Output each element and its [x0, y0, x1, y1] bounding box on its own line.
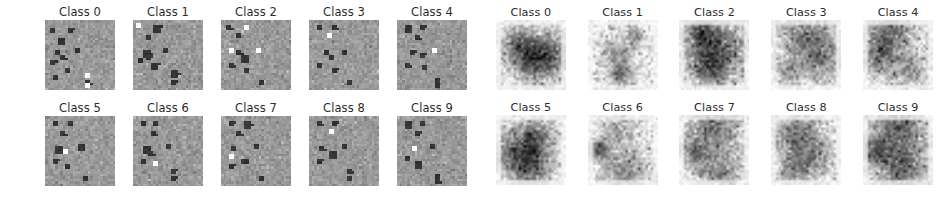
right-tile-cell-0: Class 0	[492, 6, 570, 99]
right-tile-cell-4: Class 4	[859, 6, 937, 99]
right-tile-image-1	[588, 20, 658, 90]
left-tile-image-wrap-9	[396, 116, 468, 194]
left-tile-image-wrap-7	[220, 116, 292, 194]
left-tile-image-wrap-2	[220, 20, 292, 98]
right-tile-title-3: Class 3	[786, 6, 827, 19]
left-tile-cell-3: Class 3	[308, 6, 380, 98]
left-tile-image-5	[45, 116, 115, 186]
left-tile-cell-1: Class 1	[132, 6, 204, 98]
right-panel-grid: Class 0Class 1Class 2Class 3Class 4Class…	[482, 0, 947, 202]
right-tile-image-wrap-2	[676, 20, 754, 99]
right-tile-image-wrap-4	[859, 20, 937, 99]
right-tile-cell-9: Class 9	[859, 101, 937, 194]
right-tile-image-7	[679, 115, 749, 185]
left-tile-cell-8: Class 8	[308, 102, 380, 194]
left-tile-title-9: Class 9	[411, 102, 453, 115]
right-tile-image-0	[496, 20, 566, 90]
right-tile-cell-6: Class 6	[584, 101, 662, 194]
left-tile-title-3: Class 3	[323, 6, 365, 19]
right-tile-image-4	[863, 20, 933, 90]
left-tile-image-2	[221, 20, 291, 90]
right-tile-image-6	[588, 115, 658, 185]
left-tile-title-5: Class 5	[59, 102, 101, 115]
right-tile-cell-1: Class 1	[584, 6, 662, 99]
right-tile-cell-2: Class 2	[676, 6, 754, 99]
left-tile-image-6	[133, 116, 203, 186]
left-tile-image-3	[309, 20, 379, 90]
right-tile-image-wrap-9	[859, 115, 937, 194]
right-tile-image-wrap-3	[767, 20, 845, 99]
right-tile-title-6: Class 6	[602, 101, 643, 114]
right-tile-image-wrap-0	[492, 20, 570, 99]
left-tile-image-0	[45, 20, 115, 90]
left-tile-image-wrap-8	[308, 116, 380, 194]
left-tile-title-4: Class 4	[411, 6, 453, 19]
left-tile-cell-6: Class 6	[132, 102, 204, 194]
right-tile-image-5	[496, 115, 566, 185]
left-tile-image-4	[397, 20, 467, 90]
left-tile-title-0: Class 0	[59, 6, 101, 19]
left-tile-cell-0: Class 0	[44, 6, 116, 98]
left-tile-image-7	[221, 116, 291, 186]
right-tile-title-2: Class 2	[694, 6, 735, 19]
left-tile-image-9	[397, 116, 467, 186]
figure-root: Class 0Class 1Class 2Class 3Class 4Class…	[0, 0, 947, 202]
right-tile-cell-3: Class 3	[767, 6, 845, 99]
left-tile-image-wrap-5	[44, 116, 116, 194]
right-tile-image-3	[771, 20, 841, 90]
right-tile-title-0: Class 0	[510, 6, 551, 19]
right-tile-title-1: Class 1	[602, 6, 643, 19]
left-tile-cell-4: Class 4	[396, 6, 468, 98]
right-tile-cell-8: Class 8	[767, 101, 845, 194]
right-tile-title-5: Class 5	[510, 101, 551, 114]
right-tile-image-wrap-6	[584, 115, 662, 194]
right-tile-cell-7: Class 7	[676, 101, 754, 194]
right-tile-title-4: Class 4	[878, 6, 919, 19]
right-tile-image-8	[771, 115, 841, 185]
left-tile-image-wrap-3	[308, 20, 380, 98]
left-tile-image-wrap-4	[396, 20, 468, 98]
left-tile-image-1	[133, 20, 203, 90]
right-tile-image-wrap-1	[584, 20, 662, 99]
left-tile-title-7: Class 7	[235, 102, 277, 115]
right-tile-image-2	[679, 20, 749, 90]
right-panel: Class 0Class 1Class 2Class 3Class 4Class…	[482, 0, 947, 202]
left-tile-cell-7: Class 7	[220, 102, 292, 194]
left-tile-title-1: Class 1	[147, 6, 189, 19]
left-tile-title-6: Class 6	[147, 102, 189, 115]
right-tile-image-9	[863, 115, 933, 185]
right-tile-image-wrap-5	[492, 115, 570, 194]
right-tile-title-9: Class 9	[878, 101, 919, 114]
right-tile-title-7: Class 7	[694, 101, 735, 114]
left-tile-image-wrap-1	[132, 20, 204, 98]
right-tile-title-8: Class 8	[786, 101, 827, 114]
left-tile-image-8	[309, 116, 379, 186]
right-tile-image-wrap-8	[767, 115, 845, 194]
left-panel-grid: Class 0Class 1Class 2Class 3Class 4Class…	[36, 0, 476, 202]
left-tile-image-wrap-0	[44, 20, 116, 98]
left-tile-title-2: Class 2	[235, 6, 277, 19]
left-tile-cell-2: Class 2	[220, 6, 292, 98]
left-tile-title-8: Class 8	[323, 102, 365, 115]
right-tile-image-wrap-7	[676, 115, 754, 194]
right-tile-cell-5: Class 5	[492, 101, 570, 194]
left-tile-cell-9: Class 9	[396, 102, 468, 194]
left-panel: Class 0Class 1Class 2Class 3Class 4Class…	[36, 0, 476, 202]
left-tile-cell-5: Class 5	[44, 102, 116, 194]
left-tile-image-wrap-6	[132, 116, 204, 194]
